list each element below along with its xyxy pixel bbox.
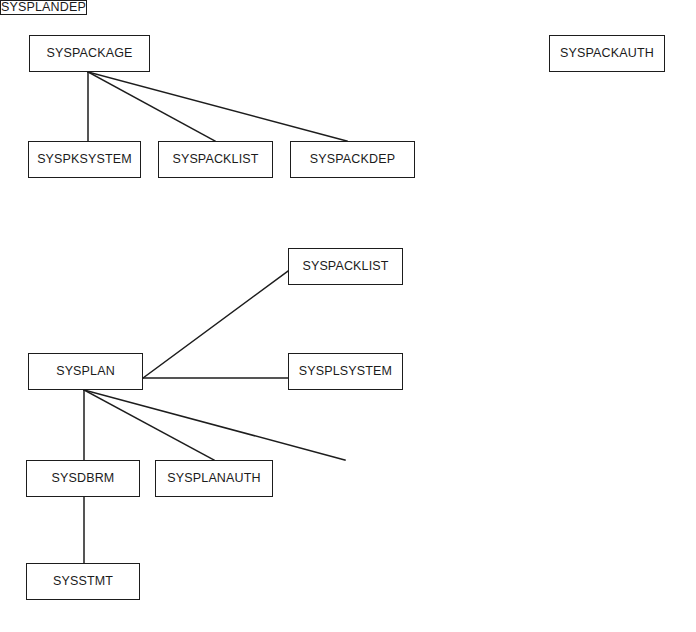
node-sysstmt[interactable]: SYSSTMT xyxy=(26,563,140,600)
node-label: SYSPACKAUTH xyxy=(560,47,654,60)
connector-layer xyxy=(0,0,696,632)
node-syspacklist-plan[interactable]: SYSPACKLIST xyxy=(288,248,403,285)
connector-e-plan-plandep xyxy=(84,390,345,460)
node-label: SYSPACKAGE xyxy=(46,47,132,60)
node-syspacklist-package[interactable]: SYSPACKLIST xyxy=(158,141,273,178)
node-label: SYSPLSYSTEM xyxy=(299,365,392,378)
node-sysdbrm[interactable]: SYSDBRM xyxy=(26,460,140,497)
node-label: SYSPLANDEP xyxy=(1,1,86,14)
node-syspackage[interactable]: SYSPACKAGE xyxy=(29,35,150,72)
node-label: SYSPACKDEP xyxy=(310,153,395,166)
node-label: SYSSTMT xyxy=(53,575,113,588)
node-syspackdep[interactable]: SYSPACKDEP xyxy=(290,141,415,178)
node-sysplsystem[interactable]: SYSPLSYSTEM xyxy=(288,353,403,390)
node-sysplan[interactable]: SYSPLAN xyxy=(28,353,143,390)
node-sysplanauth[interactable]: SYSPLANAUTH xyxy=(155,460,273,497)
node-label: SYSPLANAUTH xyxy=(167,472,260,485)
connector-e-plan-packlist xyxy=(143,271,288,378)
node-sysplandep[interactable]: SYSPLANDEP xyxy=(0,0,87,15)
connector-e-package-packdep xyxy=(88,72,347,141)
node-label: SYSPACKLIST xyxy=(302,260,388,273)
diagram-canvas: SYSPACKAGE SYSPACKAUTH SYSPKSYSTEM SYSPA… xyxy=(0,0,696,632)
node-syspksystem[interactable]: SYSPKSYSTEM xyxy=(28,141,141,178)
node-label: SYSPKSYSTEM xyxy=(37,153,132,166)
connector-e-package-packlist xyxy=(88,72,215,141)
node-syspackauth[interactable]: SYSPACKAUTH xyxy=(549,35,665,72)
connector-e-plan-planauth xyxy=(84,390,214,460)
node-label: SYSPACKLIST xyxy=(172,153,258,166)
node-label: SYSDBRM xyxy=(52,472,115,485)
node-label: SYSPLAN xyxy=(56,365,115,378)
